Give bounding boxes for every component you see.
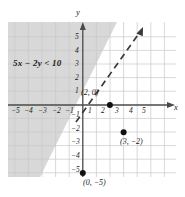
- point-0-neg5: [80, 170, 86, 176]
- x-tick-1: 1: [88, 106, 92, 115]
- x-tick--5: −5: [11, 106, 20, 115]
- coordinate-plane: [8, 22, 176, 177]
- inequality-label: 5x − 2y < 10: [13, 58, 61, 68]
- y-axis-label: y: [76, 7, 80, 17]
- y-tick-5: 5: [75, 32, 79, 41]
- point-3-neg2: [121, 129, 127, 135]
- y-tick--3: −3: [71, 137, 80, 146]
- x-tick--2: −2: [52, 106, 61, 115]
- y-tick-1: 1: [75, 86, 79, 95]
- y-tick--4: −4: [71, 151, 80, 160]
- point-2-0: [107, 102, 113, 108]
- x-tick--3: −3: [38, 106, 47, 115]
- point-label-0-neg5: (0, −5): [83, 178, 106, 187]
- point-label-2-0: (2, 0): [81, 88, 98, 97]
- y-tick-4: 4: [75, 46, 79, 55]
- y-tick--5: −5: [71, 165, 80, 174]
- x-tick-5: 5: [142, 106, 146, 115]
- x-tick--4: −4: [24, 106, 33, 115]
- plot-svg: [8, 22, 176, 177]
- x-tick-3: 3: [115, 106, 119, 115]
- y-tick-2: 2: [75, 73, 79, 82]
- y-tick--2: −2: [71, 124, 80, 133]
- x-axis-label: x: [174, 102, 178, 112]
- point-label-3-neg2: (3, −2): [120, 137, 143, 146]
- x-tick-4: 4: [129, 106, 133, 115]
- inequality-graph-figure: 5x − 2y < 10 y x −5 −4 −3 −2 −1 1 2 3 4 …: [0, 0, 185, 197]
- y-tick--1: −1: [71, 110, 80, 119]
- y-tick-3: 3: [75, 59, 79, 68]
- x-tick-2: 2: [101, 106, 105, 115]
